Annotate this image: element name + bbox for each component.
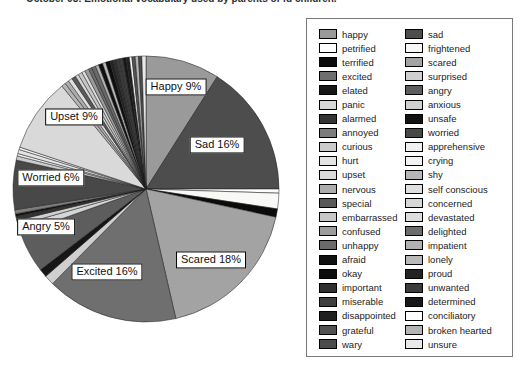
legend-item: anxious (405, 99, 508, 110)
legend-label: miserable (342, 296, 383, 307)
legend-item: grateful (319, 325, 405, 336)
legend-label: conciliatory (428, 310, 476, 321)
legend-item: scared (405, 57, 508, 68)
legend-label: unsafe (428, 113, 457, 124)
legend-item: okay (319, 268, 405, 279)
legend-swatch-icon (405, 212, 423, 222)
slice-label: Angry 5% (17, 218, 75, 235)
legend-swatch-icon (405, 29, 423, 39)
legend-item: unhappy (319, 240, 405, 251)
legend-swatch-icon (319, 339, 337, 349)
legend-item: upset (319, 169, 405, 180)
legend-label: unhappy (342, 240, 378, 251)
slice-label: Sad 16% (190, 136, 245, 153)
legend-label: angry (428, 85, 452, 96)
slice-label: Worried 6% (17, 169, 84, 186)
legend-label: scared (428, 57, 457, 68)
legend-swatch-icon (319, 128, 337, 138)
legend-swatch-icon (319, 100, 337, 110)
legend-label: disappointed (342, 310, 396, 321)
legend: happysadpetrifiedfrightenedterrifiedscar… (306, 18, 513, 357)
legend-item: miserable (319, 296, 405, 307)
legend-swatch-icon (319, 85, 337, 95)
legend-item: unsafe (405, 113, 508, 124)
legend-label: afraid (342, 254, 366, 265)
legend-label: alarmed (342, 113, 376, 124)
legend-item: happy (319, 29, 405, 40)
legend-item: terrified (319, 57, 405, 68)
legend-item: petrified (319, 43, 405, 54)
legend-swatch-icon (319, 71, 337, 81)
legend-item: broken hearted (405, 325, 508, 336)
legend-swatch-icon (405, 71, 423, 81)
legend-swatch-icon (405, 100, 423, 110)
legend-item: annoyed (319, 127, 405, 138)
legend-swatch-icon (405, 57, 423, 67)
legend-item: curious (319, 141, 405, 152)
legend-item: worried (405, 127, 508, 138)
legend-label: broken hearted (428, 325, 492, 336)
legend-label: unsure (428, 339, 457, 350)
legend-swatch-icon (405, 198, 423, 208)
legend-swatch-icon (319, 269, 337, 279)
legend-item: afraid (319, 254, 405, 265)
legend-label: embarrassed (342, 212, 397, 223)
legend-swatch-icon (405, 283, 423, 293)
legend-swatch-icon (319, 311, 337, 321)
legend-swatch-icon (319, 156, 337, 166)
legend-swatch-icon (319, 297, 337, 307)
legend-label: anxious (428, 99, 461, 110)
legend-item: alarmed (319, 113, 405, 124)
legend-swatch-icon (405, 269, 423, 279)
legend-label: terrified (342, 57, 374, 68)
legend-swatch-icon (405, 311, 423, 321)
legend-item: angry (405, 85, 508, 96)
legend-item: self conscious (405, 184, 508, 195)
legend-swatch-icon (319, 114, 337, 124)
legend-item: special (319, 198, 405, 209)
legend-swatch-icon (405, 43, 423, 53)
legend-label: delighted (428, 226, 467, 237)
legend-swatch-icon (405, 114, 423, 124)
legend-swatch-icon (319, 43, 337, 53)
legend-label: nervous (342, 184, 376, 195)
legend-item: frightened (405, 43, 508, 54)
legend-item: excited (319, 71, 405, 82)
legend-label: concerned (428, 198, 472, 209)
legend-label: sad (428, 29, 443, 40)
legend-item: unwanted (405, 282, 508, 293)
legend-item: impatient (405, 240, 508, 251)
legend-label: panic (342, 99, 365, 110)
legend-label: happy (342, 29, 368, 40)
legend-label: shy (428, 169, 443, 180)
legend-item: surprised (405, 71, 508, 82)
legend-swatch-icon (319, 226, 337, 236)
legend-item: elated (319, 85, 405, 96)
legend-label: impatient (428, 240, 467, 251)
legend-label: wary (342, 339, 362, 350)
slice-label: Excited 16% (71, 263, 142, 280)
legend-label: grateful (342, 325, 374, 336)
legend-label: devastated (428, 212, 474, 223)
legend-swatch-icon (319, 240, 337, 250)
legend-label: confused (342, 226, 381, 237)
legend-label: important (342, 282, 382, 293)
legend-item: embarrassed (319, 212, 405, 223)
legend-item: important (319, 282, 405, 293)
legend-swatch-icon (319, 198, 337, 208)
legend-item: sad (405, 29, 508, 40)
legend-label: petrified (342, 43, 376, 54)
legend-label: proud (428, 268, 452, 279)
legend-swatch-icon (405, 297, 423, 307)
legend-label: elated (342, 85, 368, 96)
legend-item: concerned (405, 198, 508, 209)
legend-label: special (342, 198, 372, 209)
slice-label: Happy 9% (146, 78, 207, 95)
legend-item: nervous (319, 184, 405, 195)
legend-label: crying (428, 155, 453, 166)
legend-item: delighted (405, 226, 508, 237)
legend-label: self conscious (428, 184, 488, 195)
legend-swatch-icon (405, 142, 423, 152)
legend-label: unwanted (428, 282, 469, 293)
legend-label: frightened (428, 43, 470, 54)
